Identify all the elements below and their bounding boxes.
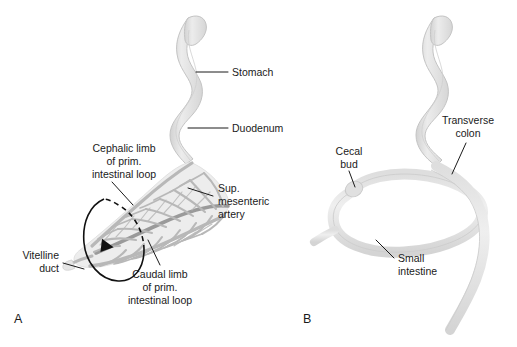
label-transverse-colon-line1: Transverse [442, 114, 494, 126]
label-vitelline-duct-line1: Vitelline [22, 249, 59, 261]
panel-letter-b: B [303, 312, 311, 326]
anatomical-illustration: Stomach Duodenum Cephalic limb of prim. … [0, 0, 517, 347]
label-cephalic-limb-line3: intestinal loop [92, 168, 156, 180]
label-small-intestine-line2: intestine [398, 265, 437, 277]
figure-root: Stomach Duodenum Cephalic limb of prim. … [0, 0, 517, 347]
label-transverse-colon-line2: colon [455, 127, 480, 139]
label-caudal-limb-line1: Caudal limb [132, 268, 188, 280]
label-cephalic-limb-line1: Cephalic limb [92, 142, 155, 154]
label-cecal-bud-line1: Cecal [336, 145, 363, 157]
label-small-intestine-line1: Small [398, 252, 424, 264]
label-caudal-limb-line2: of prim. [142, 281, 177, 293]
label-caudal-limb-line3: intestinal loop [128, 294, 192, 306]
panel-letter-a: A [14, 312, 23, 326]
label-duodenum: Duodenum [232, 122, 284, 134]
label-stomach: Stomach [232, 66, 274, 78]
label-sma-line3: artery [218, 208, 246, 220]
label-vitelline-duct-line2: duct [39, 262, 59, 274]
label-cephalic-limb-line2: of prim. [106, 155, 141, 167]
label-cecal-bud-line2: bud [340, 158, 358, 170]
label-sma-line2: mesenteric [218, 195, 269, 207]
label-sma-line1: Sup. [218, 182, 240, 194]
